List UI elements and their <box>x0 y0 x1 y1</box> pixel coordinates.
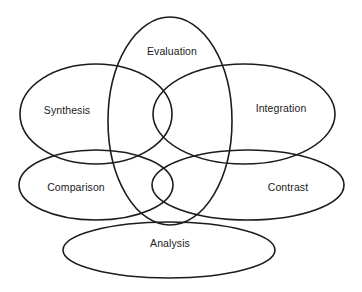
label-comparison: Comparison <box>47 181 105 193</box>
label-integration: Integration <box>256 102 307 114</box>
venn-diagram-canvas: Evaluation Synthesis Integration Compari… <box>0 0 362 292</box>
venn-diagram-root: Evaluation Synthesis Integration Compari… <box>0 0 362 292</box>
label-contrast: Contrast <box>268 181 308 193</box>
label-analysis: Analysis <box>150 237 190 249</box>
label-synthesis: Synthesis <box>44 104 90 116</box>
label-evaluation: Evaluation <box>147 45 197 57</box>
